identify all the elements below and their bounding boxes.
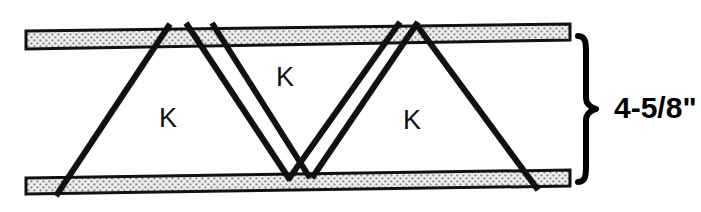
joist-drawing-canvas: K K K 4-5/8" bbox=[0, 0, 701, 212]
web-label-k-3: K bbox=[403, 105, 421, 135]
joist-diagram: K K K 4-5/8" bbox=[0, 0, 701, 212]
web-label-k-1: K bbox=[159, 103, 177, 133]
web-label-k-2: K bbox=[276, 62, 294, 92]
dimension-label: 4-5/8" bbox=[614, 91, 697, 124]
